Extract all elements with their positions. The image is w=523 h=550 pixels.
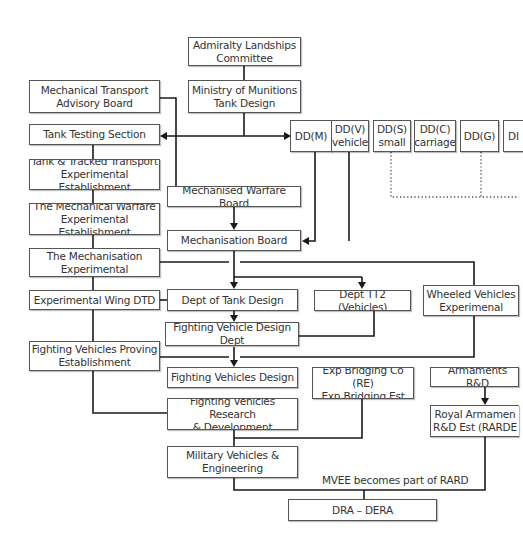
node-dept-tt2-vehicles: Dept TT2 (Vehicles) bbox=[314, 290, 411, 311]
node-mechanisation-experimental: The Mechanisation Experimental bbox=[29, 248, 160, 277]
node-mechanisation-board: Mechanisation Board bbox=[167, 230, 301, 251]
node-experimental-wing-dtd: Experimental Wing DTD bbox=[29, 290, 160, 310]
node-mechanised-warfare-board: Mechanised Warfare Board bbox=[167, 186, 301, 207]
node-fighting-vehicles-proving-establishment: Fighting Vehicles Proving Establishment bbox=[29, 341, 160, 371]
node-dd-g: DD(G) bbox=[460, 120, 499, 152]
node-dra-dera: DRA – DERA bbox=[288, 499, 437, 521]
node-tank-testing-section: Tank Testing Section bbox=[29, 124, 160, 145]
node-exp-bridging: Exp Bridging Co (RE) Exp Bridging Est bbox=[312, 367, 414, 399]
node-fighting-vehicles-research-development: Fighting Vehicles Research & Development bbox=[167, 398, 298, 430]
node-mechanical-transport-advisory-board: Mechanical Transport Advisory Board bbox=[29, 80, 160, 113]
node-dd-m: DD(M) bbox=[290, 120, 332, 152]
node-dd-v: DD(V) vehicle bbox=[331, 120, 369, 152]
node-admiralty-landships-committee: Admiralty Landships Committee bbox=[188, 37, 301, 66]
node-dd-c: DD(C) carriage bbox=[414, 120, 456, 152]
node-dept-of-tank-design: Dept of Tank Design bbox=[167, 289, 298, 311]
node-rarde: Royal Armamen R&D Est (RARDE bbox=[430, 405, 519, 437]
node-ministry-of-munitions: Ministry of Munitions Tank Design bbox=[188, 80, 301, 113]
node-dd-s: DD(S) small bbox=[373, 120, 411, 152]
node-tank-tracked-transport-ee: Tank & Tracked Transport Experimental Es… bbox=[29, 159, 160, 190]
node-mechanical-warfare-ee: The Mechanical Warfare Experimental Esta… bbox=[29, 203, 160, 235]
node-fighting-vehicles-design: Fighting Vehicles Design bbox=[167, 367, 298, 388]
node-wheeled-vehicles-experimental: Wheeled Vehicles Experimenal bbox=[423, 285, 519, 316]
node-dd-cropped: DI bbox=[503, 120, 523, 152]
node-military-vehicles-engineering: Military Vehicles & Engineering bbox=[167, 446, 298, 478]
node-armaments-rd: Armaments R&D bbox=[430, 367, 519, 387]
annotation-mvee-rard: MVEE becomes part of RARD bbox=[322, 474, 468, 486]
node-fighting-vehicle-design-dept: Fighting Vehicle Design Dept bbox=[165, 322, 299, 346]
